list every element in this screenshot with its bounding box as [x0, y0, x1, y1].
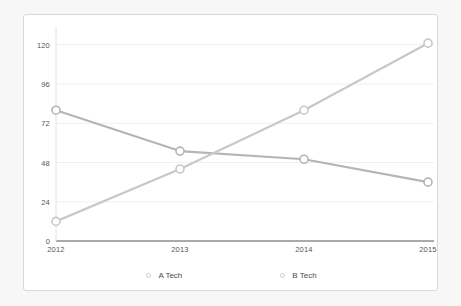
x-tick-label: 2012 [47, 245, 65, 254]
data-point-marker[interactable] [300, 106, 308, 114]
plot-area: 024487296120 2012201320142015 [24, 15, 439, 292]
data-point-marker[interactable] [424, 178, 432, 186]
data-point-marker[interactable] [176, 165, 184, 173]
x-tick-label: 2013 [171, 245, 189, 254]
y-tick-label: 0 [24, 237, 50, 246]
chart-panel: 024487296120 2012201320142015 A Tech B T… [23, 14, 438, 291]
gridlines [56, 45, 434, 202]
legend-label-b-tech: B Tech [292, 271, 316, 280]
x-tick-label: 2015 [419, 245, 437, 254]
legend-label-a-tech: A Tech [158, 271, 182, 280]
plot-svg [24, 15, 439, 292]
chart-legend: A Tech B Tech [24, 271, 439, 280]
y-tick-label: 96 [24, 80, 50, 89]
line-chart-figure: 024487296120 2012201320142015 A Tech B T… [0, 0, 461, 306]
y-tick-label: 120 [24, 40, 50, 49]
data-point-marker[interactable] [300, 155, 308, 163]
axis-lines [56, 27, 434, 241]
series-markers [52, 39, 432, 225]
legend-item-a-tech[interactable]: A Tech [146, 271, 182, 280]
series-lines [56, 43, 428, 221]
x-tick-label: 2014 [295, 245, 313, 254]
data-point-marker[interactable] [52, 217, 60, 225]
y-tick-label: 72 [24, 119, 50, 128]
data-point-marker[interactable] [176, 147, 184, 155]
open-circle-marker-icon [280, 273, 285, 278]
y-tick-label: 24 [24, 197, 50, 206]
open-circle-marker-icon [146, 273, 151, 278]
data-point-marker[interactable] [424, 39, 432, 47]
legend-item-b-tech[interactable]: B Tech [280, 271, 316, 280]
data-point-marker[interactable] [52, 106, 60, 114]
y-tick-label: 48 [24, 158, 50, 167]
series-line-a-tech [56, 110, 428, 182]
series-line-b-tech [56, 43, 428, 221]
